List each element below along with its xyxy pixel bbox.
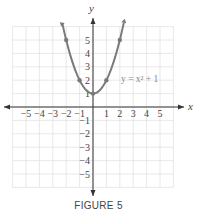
svg-text:5: 5 [158,108,163,119]
svg-text:−2: −2 [79,128,90,139]
y-axis-label: y [88,2,94,14]
figure-caption: FIGURE 5 [0,200,197,211]
svg-text:−3: −3 [47,108,58,119]
svg-text:−4: −4 [34,108,45,119]
svg-text:−2: −2 [61,108,72,119]
axes [4,18,184,196]
svg-text:5: 5 [85,35,90,46]
svg-text:−3: −3 [79,142,90,153]
svg-text:4: 4 [144,108,149,119]
svg-text:2: 2 [85,75,90,86]
svg-text:−1: −1 [79,115,90,126]
svg-text:−4: −4 [79,155,90,166]
svg-text:3: 3 [131,108,136,119]
equation-label: y = x² + 1 [121,74,159,84]
svg-text:3: 3 [85,61,90,72]
svg-text:2: 2 [117,108,122,119]
svg-text:4: 4 [85,48,90,59]
svg-text:−5: −5 [79,169,90,180]
svg-text:−5: −5 [21,108,32,119]
parabola-graph: −5−4−3−2−112345−5−4−3−2−112345 y = x² + … [0,0,197,200]
x-axis-label: x [187,100,193,112]
svg-text:1: 1 [104,108,109,119]
